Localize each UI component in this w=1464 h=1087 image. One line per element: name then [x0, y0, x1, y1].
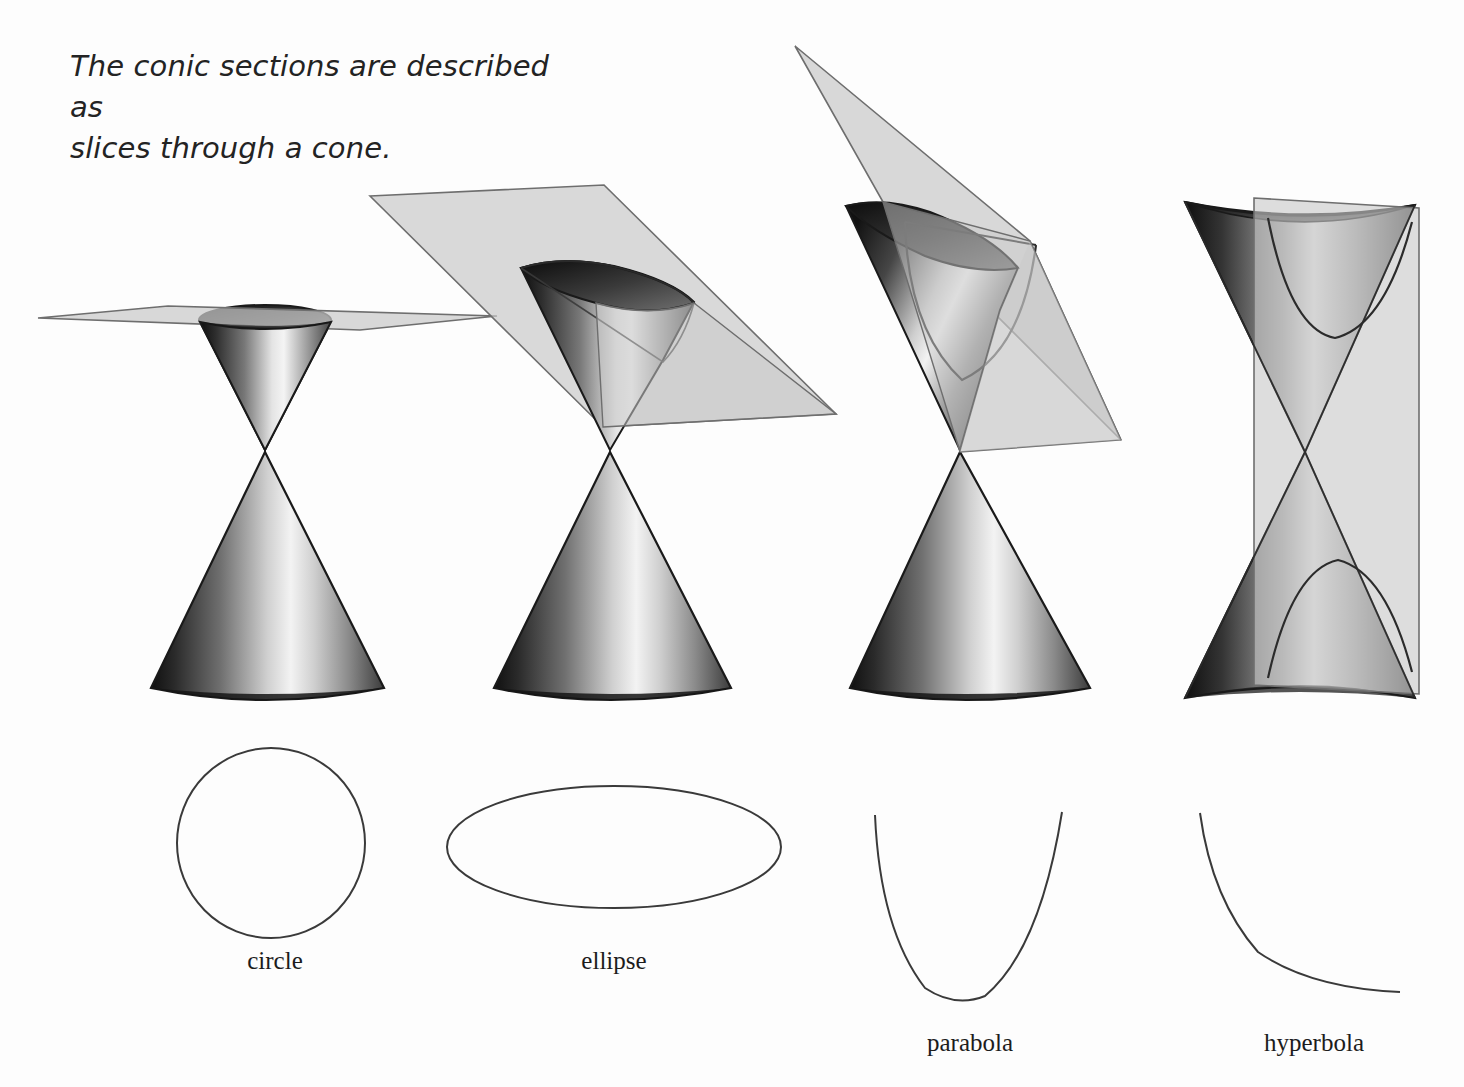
panel-parabola-cone	[795, 46, 1121, 700]
curve-hyperbola	[1200, 813, 1400, 992]
parabola-lower-nappe	[850, 452, 1090, 700]
circle-lower-nappe	[151, 452, 384, 700]
conic-sections-artwork	[0, 0, 1464, 1087]
conic-sections-figure: The conic sections are described as slic…	[0, 0, 1464, 1087]
circle-upper-nappe-front	[200, 322, 331, 450]
label-hyperbola: hyperbola	[1184, 1029, 1444, 1057]
ellipse-cutting-plane-front	[596, 303, 836, 427]
panel-circle-cone	[38, 305, 497, 700]
curve-circle	[177, 748, 365, 938]
label-parabola: parabola	[840, 1029, 1100, 1057]
panel-ellipse-cone	[370, 185, 836, 700]
curve-parabola	[875, 812, 1062, 1001]
ellipse-lower-nappe	[494, 452, 731, 700]
curve-ellipse	[447, 786, 781, 908]
panel-hyperbola-cone	[1185, 198, 1419, 698]
label-ellipse: ellipse	[484, 947, 744, 975]
label-circle: circle	[145, 947, 405, 975]
